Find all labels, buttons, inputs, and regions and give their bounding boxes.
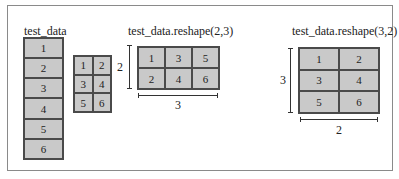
array-cell: 5 [299, 91, 339, 113]
array-cell: 4 [24, 98, 63, 118]
array-cell: 1 [138, 47, 165, 68]
reshape-3-2-title: test_data.reshape(3,2) [292, 25, 397, 37]
array-cell: 1 [74, 56, 93, 75]
array-cell: 3 [299, 70, 339, 92]
row-dimension-bracket [288, 48, 293, 113]
array-cell: 2 [24, 58, 63, 78]
flat-3x2-grid: 1 2 3 4 5 6 [73, 55, 112, 113]
column-dimension-label: 2 [336, 124, 342, 136]
row-dimension-label: 2 [117, 61, 123, 73]
column-dimension-label: 3 [175, 99, 181, 111]
array-cell: 5 [74, 93, 93, 112]
array-cell: 5 [192, 47, 219, 68]
array-cell: 6 [339, 91, 379, 113]
reshape-3-2-grid: 1 2 3 4 5 6 [298, 47, 380, 114]
array-cell: 3 [165, 47, 192, 68]
row-dimension-label: 3 [280, 74, 286, 86]
original-array-column: 1 2 3 4 5 6 [23, 37, 64, 160]
array-cell: 2 [93, 56, 112, 75]
array-cell: 1 [299, 48, 339, 70]
array-cell: 4 [93, 75, 112, 94]
array-cell: 1 [24, 38, 63, 58]
array-cell: 4 [339, 70, 379, 92]
array-cell: 6 [24, 139, 63, 159]
reshape-2-3-title: test_data.reshape(2,3) [128, 25, 233, 37]
array-cell: 5 [24, 119, 63, 139]
array-cell: 4 [165, 68, 192, 89]
array-cell: 3 [24, 78, 63, 98]
array-cell: 6 [192, 68, 219, 89]
column-dimension-bracket [300, 117, 378, 122]
row-dimension-bracket [127, 45, 132, 89]
original-title: test_data [24, 25, 67, 37]
array-cell: 6 [93, 93, 112, 112]
reshape-2-3-grid: 1 3 5 2 4 6 [137, 46, 220, 90]
array-cell: 3 [74, 75, 93, 94]
array-cell: 2 [339, 48, 379, 70]
array-cell: 2 [138, 68, 165, 89]
